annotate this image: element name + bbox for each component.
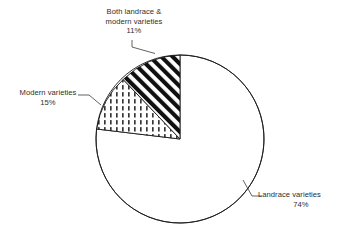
pie-label-both-landrace-and-modern-varieties: Both landrace & modern varieties 11%: [0, 7, 268, 36]
pie-chart: Both landrace & modern varieties 11% Mod…: [0, 0, 356, 234]
pie-value-landrace: 74%: [258, 200, 344, 210]
pie-value-modern: 15%: [2, 98, 94, 108]
pie-label-landrace-line-1: Landrace varieties: [258, 190, 354, 200]
pie-value-both: 11%: [0, 26, 268, 36]
pie-label-modern-varieties: Modern varieties 15%: [2, 88, 94, 107]
pie-label-landrace-varieties: Landrace varieties 74%: [258, 190, 354, 209]
leader-line-both-landrace-and-modern-varieties: [132, 40, 155, 54]
pie-label-both-line-1: Both landrace &: [0, 7, 268, 17]
pie-label-both-line-2: modern varieties: [0, 17, 268, 27]
pie-label-modern-line-1: Modern varieties: [2, 88, 94, 98]
